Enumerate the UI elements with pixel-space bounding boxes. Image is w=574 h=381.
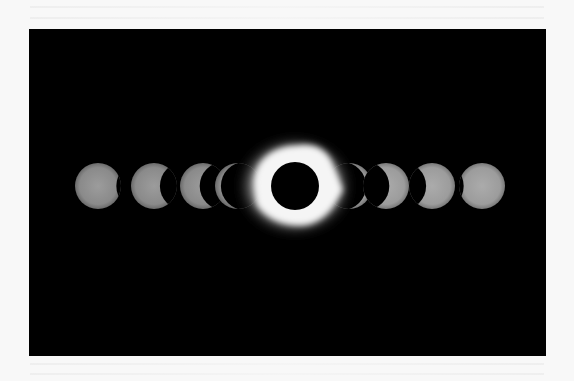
- totality-corona: [239, 138, 351, 234]
- eclipse-sequence: [29, 29, 546, 356]
- bleed-through-text-line: [30, 363, 544, 365]
- sun-disk: [459, 163, 505, 209]
- bleed-through-text-line: [30, 6, 544, 8]
- moon-disk-totality: [271, 162, 319, 210]
- bleed-through-text-line: [30, 17, 544, 19]
- scanned-page: [0, 0, 574, 381]
- sun-disk: [75, 163, 121, 209]
- bleed-through-text-line: [30, 373, 544, 375]
- eclipse-photograph: [29, 29, 546, 356]
